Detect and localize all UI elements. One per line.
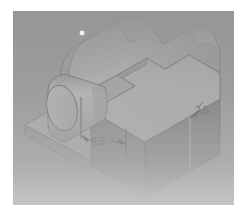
cad-viewport[interactable]: 2,5 8.5 <box>13 11 234 205</box>
offset-dimension-label: 8.5 <box>91 136 105 147</box>
cursor-dot <box>80 31 84 35</box>
height-dimension-label: 2,5 <box>195 105 209 116</box>
screenshot-root: 2,5 8.5 <box>0 0 247 216</box>
cad-model-canvas[interactable]: 2,5 8.5 <box>13 11 234 205</box>
